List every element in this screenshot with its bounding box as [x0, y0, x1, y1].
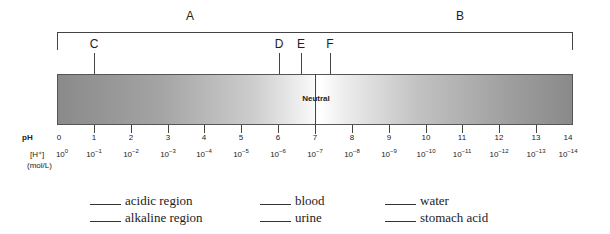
- h-exponent: −13: [535, 148, 545, 154]
- h-concentration-label: 10−7: [307, 150, 323, 159]
- answer-blank[interactable]: [385, 210, 416, 222]
- ph-value-label: 1: [92, 133, 96, 142]
- h-base: 10: [270, 150, 279, 159]
- h-concentration-label: 10−1: [86, 150, 102, 159]
- ph-tick: [499, 125, 500, 133]
- h-base: 10: [558, 150, 567, 159]
- marker-label-d: D: [275, 37, 284, 51]
- question-column-2: bloodurine: [260, 192, 325, 226]
- ph-tick: [462, 125, 463, 133]
- h-concentration-label: 10−8: [344, 150, 360, 159]
- region-label-b: B: [456, 9, 464, 23]
- h-concentration-label: 10−3: [160, 150, 176, 159]
- h-exponent: −1: [95, 148, 102, 154]
- ph-value-label: 7: [313, 133, 317, 142]
- region-bracket: [57, 32, 573, 50]
- h-base: 10: [381, 150, 390, 159]
- h-row-unit: (mol/L): [27, 161, 52, 170]
- h-concentration-label: 10−2: [123, 150, 139, 159]
- ph-value-label: 14: [564, 133, 573, 142]
- h-exponent: −5: [242, 148, 249, 154]
- h-base: 10: [344, 150, 353, 159]
- ph-value-label: 12: [495, 133, 504, 142]
- neutral-label: Neutral: [302, 94, 330, 103]
- ph-value-label: 13: [532, 133, 541, 142]
- ph-tick: [168, 125, 169, 133]
- ph-tick: [241, 125, 242, 133]
- h-base: 10: [526, 150, 535, 159]
- ph-value-label: 9: [387, 133, 391, 142]
- h-base: 10: [56, 150, 65, 159]
- question-label: blood: [295, 192, 325, 209]
- h-exponent: −14: [567, 148, 577, 154]
- answer-blank[interactable]: [90, 193, 121, 205]
- h-base: 10: [489, 150, 498, 159]
- h-base: 10: [307, 150, 316, 159]
- marker-line-d: [279, 53, 280, 74]
- h-concentration-label: 10−14: [558, 150, 577, 159]
- h-exponent: 0: [65, 148, 68, 154]
- h-base: 10: [86, 150, 95, 159]
- h-exponent: −2: [132, 148, 139, 154]
- h-concentration-label: 10−10: [416, 150, 435, 159]
- answer-blank[interactable]: [90, 210, 121, 222]
- ph-tick: [204, 125, 205, 133]
- question-label: stomach acid: [420, 209, 488, 226]
- marker-line-e: [301, 53, 302, 74]
- ph-tick: [352, 125, 353, 133]
- ph-value-label: 3: [166, 133, 170, 142]
- ph-tick: [389, 125, 390, 133]
- marker-label-e: E: [297, 37, 305, 51]
- h-exponent: −4: [205, 148, 212, 154]
- h-concentration-label: 10−6: [270, 150, 286, 159]
- h-concentration-label: 10−12: [489, 150, 508, 159]
- ph-tick: [315, 125, 316, 133]
- question-item: stomach acid: [385, 209, 488, 226]
- ph-value-label: 0: [57, 133, 61, 142]
- h-base: 10: [416, 150, 425, 159]
- marker-label-c: C: [90, 37, 99, 51]
- answer-blank[interactable]: [260, 210, 291, 222]
- question-label: acidic region: [125, 192, 193, 209]
- question-item: acidic region: [90, 192, 203, 209]
- question-item: urine: [260, 209, 325, 226]
- ph-tick: [278, 125, 279, 133]
- question-label: alkaline region: [125, 209, 203, 226]
- ph-value-label: 10: [422, 133, 431, 142]
- question-column-3: waterstomach acid: [385, 192, 488, 226]
- h-concentration-label: 10−5: [233, 150, 249, 159]
- ph-value-label: 5: [239, 133, 243, 142]
- ph-tick: [94, 125, 95, 133]
- h-exponent: −8: [353, 148, 360, 154]
- h-exponent: −12: [498, 148, 508, 154]
- ph-tick: [131, 125, 132, 133]
- h-concentration-label: 10−4: [196, 150, 212, 159]
- h-concentration-label: 10−11: [453, 150, 472, 159]
- question-label: water: [420, 192, 449, 209]
- ph-row-title: pH: [22, 133, 33, 142]
- h-concentration-label: 100: [56, 150, 68, 159]
- h-concentration-label: 10−13: [526, 150, 545, 159]
- answer-blank[interactable]: [385, 193, 416, 205]
- h-concentration-label: 10−9: [381, 150, 397, 159]
- ph-value-label: 11: [458, 133, 466, 142]
- h-exponent: −10: [425, 148, 435, 154]
- marker-label-f: F: [326, 37, 333, 51]
- question-label: urine: [295, 209, 322, 226]
- ph-value-label: 8: [350, 133, 354, 142]
- h-exponent: −3: [169, 148, 176, 154]
- question-column-1: acidic regionalkaline region: [90, 192, 203, 226]
- h-exponent: −6: [279, 148, 286, 154]
- answer-blank[interactable]: [260, 193, 291, 205]
- question-item: blood: [260, 192, 325, 209]
- ph-value-label: 4: [202, 133, 206, 142]
- h-row-title: [H⁺]: [30, 150, 44, 159]
- region-label-a: A: [186, 9, 194, 23]
- h-exponent: −7: [316, 148, 323, 154]
- h-base: 10: [160, 150, 169, 159]
- question-item: water: [385, 192, 488, 209]
- marker-line-f: [330, 53, 331, 74]
- h-base: 10: [196, 150, 205, 159]
- ph-value-label: 2: [129, 133, 133, 142]
- h-base: 10: [453, 150, 462, 159]
